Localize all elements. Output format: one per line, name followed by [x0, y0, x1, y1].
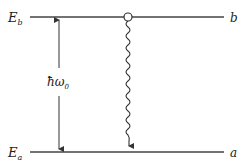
emission-transition — [124, 13, 132, 146]
upper-state-label: b — [230, 11, 238, 25]
lower-energy-label: Ea — [7, 145, 23, 162]
energy-level-diagram: Eb b Ea a ħω0 — [0, 0, 249, 162]
energy-gap-indicator: ħω0 — [47, 20, 70, 149]
photon-wavy-line-icon — [126, 21, 130, 146]
lower-level: Ea a — [7, 145, 237, 162]
lower-state-label: a — [230, 146, 237, 160]
energy-gap-label: ħω0 — [47, 75, 70, 91]
initial-state-circle-icon — [124, 13, 132, 21]
upper-energy-label: Eb — [7, 10, 23, 27]
upper-level: Eb b — [7, 10, 238, 27]
